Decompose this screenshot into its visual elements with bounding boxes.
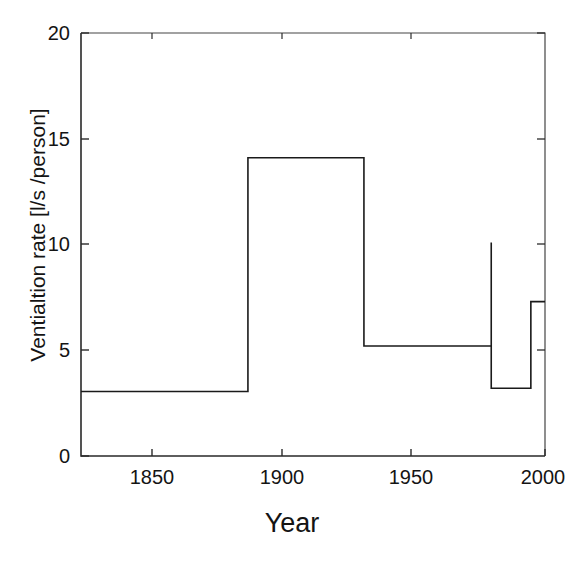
y-tick-marks xyxy=(81,33,89,456)
axis-frame-top xyxy=(81,33,545,456)
y-tick-label-20: 20 xyxy=(36,22,70,45)
chart-figure: Ventialtion rate [l/s /person] xyxy=(0,0,584,563)
axis-spines xyxy=(81,33,545,456)
y-tick-label-15: 15 xyxy=(36,128,70,151)
y-tick-label-0: 0 xyxy=(36,445,70,468)
x-axis-title: Year xyxy=(0,508,584,539)
data-series-line xyxy=(81,158,545,392)
x-tick-label-1850: 1850 xyxy=(130,466,175,489)
x-tick-marks-top xyxy=(152,33,411,39)
x-tick-label-1900: 1900 xyxy=(260,466,305,489)
x-tick-label-2000: 2000 xyxy=(521,466,566,489)
y-tick-label-5: 5 xyxy=(36,339,70,362)
y-tick-label-10: 10 xyxy=(36,233,70,256)
x-tick-label-1950: 1950 xyxy=(389,466,434,489)
x-tick-marks xyxy=(152,449,545,456)
y-tick-marks-right xyxy=(537,33,545,350)
